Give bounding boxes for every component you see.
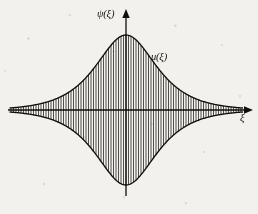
arrow-up-icon [122,9,129,18]
plot-canvas [0,0,258,214]
y-axis-label: ψ(ξ) [97,9,114,20]
envelope-label: u(ξ) [151,52,167,63]
x-axis-label: ξ [240,113,244,124]
wave-packet-figure: ψ(ξ) u(ξ) ξ [0,0,258,214]
arrow-right-icon [244,106,253,114]
